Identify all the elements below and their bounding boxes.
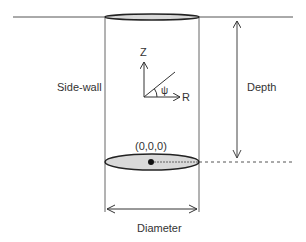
borehole-diagram: Z R ψ Side-wall Depth (0,0,0) Diameter [0,0,306,242]
angle-ray [144,72,175,97]
angle-arc [155,89,158,97]
origin-point [148,159,154,165]
angle-psi-label: ψ [161,85,168,96]
z-axis-label: Z [140,46,147,58]
r-axis-label: R [182,91,190,103]
depth-label: Depth [247,81,276,93]
diameter-label: Diameter [137,222,182,234]
origin-label: (0,0,0) [135,140,167,152]
side-wall-label: Side-wall [57,81,102,93]
top-opening-ellipse [105,14,199,20]
